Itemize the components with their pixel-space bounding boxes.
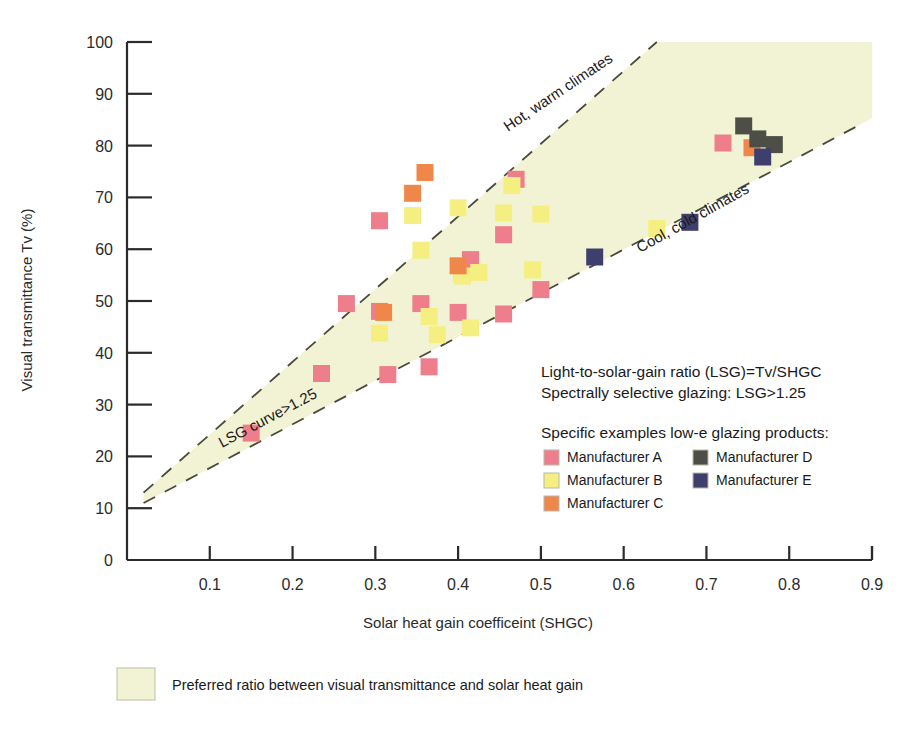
x-tick-label: 0.3 <box>364 576 386 593</box>
legend-swatch-a <box>544 450 559 465</box>
legend-swatch-d <box>693 450 708 465</box>
y-tick-label: 90 <box>95 86 113 103</box>
legend-item-manufacturer-d[interactable]: Manufacturer D <box>693 449 812 465</box>
legend-label-b: Manufacturer B <box>567 472 663 488</box>
data-point-manufacturer-a <box>379 366 396 383</box>
y-tick-label: 40 <box>95 345 113 362</box>
legend-label-e: Manufacturer E <box>716 472 812 488</box>
x-tick-label: 0.5 <box>530 576 552 593</box>
data-point-manufacturer-c <box>450 257 467 274</box>
caption-swatch <box>117 668 155 700</box>
legend-label-d: Manufacturer D <box>716 449 812 465</box>
x-tick-label: 0.1 <box>199 576 221 593</box>
data-point-manufacturer-c <box>375 304 392 321</box>
data-point-manufacturer-c <box>417 164 434 181</box>
data-point-manufacturer-b <box>421 308 438 325</box>
data-point-manufacturer-a <box>495 226 512 243</box>
data-point-manufacturer-a <box>371 212 388 229</box>
x-tick-label: 0.4 <box>447 576 469 593</box>
data-point-manufacturer-a <box>421 358 438 375</box>
y-tick-label: 30 <box>95 397 113 414</box>
data-point-manufacturer-e <box>754 149 771 166</box>
data-point-manufacturer-b <box>404 207 421 224</box>
data-point-manufacturer-a <box>715 135 732 152</box>
legend-item-manufacturer-b[interactable]: Manufacturer B <box>544 472 663 488</box>
data-point-manufacturer-a <box>338 295 355 312</box>
x-axis-ticks <box>210 546 872 560</box>
data-point-manufacturer-e <box>586 249 603 266</box>
data-point-manufacturer-b <box>429 326 446 343</box>
legend-item-manufacturer-a[interactable]: Manufacturer A <box>544 449 663 465</box>
data-point-manufacturer-b <box>532 206 549 223</box>
note-lsg-definition: Light-to-solar-gain ratio (LSG)=Tv/SHGC <box>541 363 821 380</box>
legend-item-manufacturer-e[interactable]: Manufacturer E <box>693 472 812 488</box>
data-point-manufacturer-b <box>503 177 520 194</box>
data-point-manufacturer-b <box>412 242 429 259</box>
legend-swatch-c <box>544 496 559 511</box>
data-point-manufacturer-b <box>450 199 467 216</box>
data-point-manufacturer-c <box>404 185 421 202</box>
y-tick-label: 0 <box>104 552 113 569</box>
x-axis-tick-labels: 0.10.20.30.40.50.60.70.80.9 <box>199 576 884 593</box>
legend: Specific examples low-e glazing products… <box>541 424 829 511</box>
data-point-manufacturer-a <box>313 365 330 382</box>
figure-caption: Preferred ratio between visual transmitt… <box>117 668 583 700</box>
x-tick-label: 0.7 <box>695 576 717 593</box>
data-point-manufacturer-a <box>450 304 467 321</box>
data-point-manufacturer-b <box>524 261 541 278</box>
y-tick-label: 20 <box>95 448 113 465</box>
scatter-chart: 0102030405060708090100 0.10.20.30.40.50.… <box>0 0 918 742</box>
y-tick-label: 100 <box>86 34 113 51</box>
y-tick-label: 10 <box>95 500 113 517</box>
legend-label-a: Manufacturer A <box>567 449 663 465</box>
data-point-manufacturer-b <box>371 325 388 342</box>
data-point-manufacturer-a <box>495 306 512 323</box>
data-point-manufacturer-a <box>532 281 549 298</box>
legend-item-manufacturer-c[interactable]: Manufacturer C <box>544 495 663 511</box>
y-axis-title: Visual transmittance Tv (%) <box>18 209 35 392</box>
x-tick-label: 0.2 <box>281 576 303 593</box>
data-point-manufacturer-b <box>495 204 512 221</box>
legend-label-c: Manufacturer C <box>567 495 663 511</box>
figure-container: 0102030405060708090100 0.10.20.30.40.50.… <box>0 0 918 742</box>
y-tick-label: 50 <box>95 293 113 310</box>
x-tick-label: 0.9 <box>861 576 883 593</box>
legend-swatch-e <box>693 473 708 488</box>
y-axis-ticks <box>127 42 152 508</box>
legend-swatch-b <box>544 473 559 488</box>
y-tick-label: 70 <box>95 189 113 206</box>
data-point-manufacturer-b <box>462 319 479 336</box>
caption-label: Preferred ratio between visual transmitt… <box>172 677 583 693</box>
data-point-manufacturer-d <box>749 130 766 147</box>
note-spectrally-selective: Spectrally selective glazing: LSG>1.25 <box>541 384 806 401</box>
x-tick-label: 0.8 <box>778 576 800 593</box>
x-tick-label: 0.6 <box>613 576 635 593</box>
y-axis-tick-labels: 0102030405060708090100 <box>86 34 113 569</box>
y-tick-label: 80 <box>95 138 113 155</box>
x-axis-title: Solar heat gain coefficeint (SHGC) <box>363 614 593 631</box>
legend-title: Specific examples low-e glazing products… <box>541 424 829 441</box>
y-tick-label: 60 <box>95 241 113 258</box>
data-point-manufacturer-b <box>470 264 487 281</box>
